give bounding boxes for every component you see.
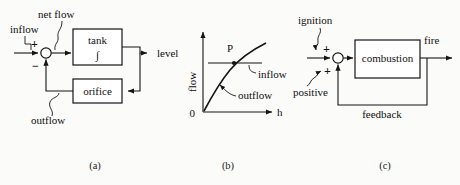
- outflow-annotation-leader: [220, 85, 236, 96]
- figure-container: inflow + − net flow tank ∫ level: [0, 0, 460, 185]
- caption-b: (b): [222, 160, 235, 172]
- operating-point-label: P: [227, 42, 233, 54]
- ignition-leader: [316, 28, 321, 50]
- operating-point-marker: [232, 61, 236, 65]
- tank-label: tank: [88, 34, 107, 46]
- positive-leader: [307, 71, 321, 86]
- level-feedback-branch: [128, 53, 140, 91]
- inflow-label: inflow: [10, 23, 39, 35]
- inflow-annotation-label: inflow: [258, 68, 287, 80]
- x-axis-label: h: [277, 106, 283, 118]
- outflow-feedback-line: [46, 60, 73, 92]
- net-flow-leader: [55, 21, 62, 50]
- inflow-annotation-leader: [249, 65, 256, 73]
- outflow-annotation-label: outflow: [238, 89, 272, 101]
- plus-sign-c-top: +: [323, 42, 330, 56]
- minus-sign-a: −: [32, 59, 39, 73]
- summing-junction-c: [333, 53, 343, 63]
- ignition-label: ignition: [298, 14, 333, 26]
- outflow-leader-a: [50, 93, 59, 116]
- fire-label: fire: [424, 34, 439, 46]
- caption-c: (c): [379, 160, 391, 172]
- combustion-label: combustion: [362, 52, 414, 64]
- level-label: level: [157, 47, 178, 59]
- net-flow-label: net flow: [38, 8, 74, 20]
- positive-label: positive: [293, 86, 328, 98]
- y-axis-label: flow: [186, 72, 198, 92]
- origin-label: 0: [190, 107, 196, 119]
- plus-sign-a: +: [31, 37, 38, 51]
- outflow-label-a: outflow: [31, 114, 65, 126]
- panel-a: inflow + − net flow tank ∫ level: [10, 8, 178, 126]
- level-output-line: [122, 47, 147, 53]
- orifice-label: orifice: [83, 85, 112, 97]
- plus-sign-c-bottom: +: [324, 64, 331, 78]
- caption-a: (a): [89, 160, 101, 172]
- summing-junction-a: [41, 48, 51, 58]
- feedback-label: feedback: [362, 108, 402, 120]
- panel-c: ignition + + combustion fire feedback po…: [293, 14, 452, 120]
- panel-b: flow h 0 P inflow outflow: [186, 32, 287, 119]
